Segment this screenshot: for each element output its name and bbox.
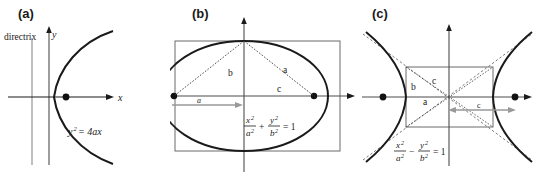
x-axis-label: x <box>117 92 123 103</box>
equation-num2-exponent: 2 <box>425 140 428 146</box>
semi-major-measure-label: a <box>197 96 201 105</box>
y-axis-arrowhead <box>446 24 452 31</box>
equation-rhs: = 1 <box>433 147 446 157</box>
equation-rhs: = 1 <box>283 122 296 132</box>
focal-measure-label: c <box>477 101 481 110</box>
directrix-label: directrix <box>4 32 36 42</box>
focus-left-point <box>380 94 387 101</box>
equation-operator: − <box>409 147 414 157</box>
equation-num2: y <box>269 115 274 125</box>
conjugate-axis-label: b <box>411 82 416 92</box>
y-axis-arrowhead <box>46 26 52 33</box>
parabola-plot: directrix x y y 2 = 4ax <box>0 0 170 178</box>
x-axis-arrowhead <box>106 94 114 100</box>
equation-den1-exponent: 2 <box>251 128 254 134</box>
parabola-equation: y 2 = 4ax <box>67 125 102 138</box>
panel-parabola: (a) directrix x y y 2 = 4ax <box>0 0 170 178</box>
equation-lhs-base: y <box>67 126 73 137</box>
equation-rhs: = 4ax <box>78 126 102 137</box>
hyperbola-equation: x 2 a 2 − y 2 b 2 = 1 <box>394 140 446 164</box>
x-axis-arrowhead <box>524 94 532 100</box>
equation-operator: + <box>259 122 264 132</box>
focal-distance-label: c <box>277 84 281 94</box>
equation-num1-exponent: 2 <box>251 115 254 121</box>
semi-major-measure-arrowhead <box>235 102 243 108</box>
equation-den2-exponent: 2 <box>275 128 278 134</box>
hyperbola-plot: b c a c x 2 a 2 − y 2 b 2 = 1 <box>360 0 538 178</box>
equation-num1: x <box>245 115 250 125</box>
ellipse-equation: x 2 a 2 + y 2 b 2 = 1 <box>244 115 296 139</box>
y-axis-label: y <box>51 29 57 40</box>
equation-den2-exponent: 2 <box>425 153 428 159</box>
ellipse-plot: b a c a x 2 a 2 + y 2 b 2 = 1 <box>170 0 360 178</box>
diagonal-label: c <box>432 76 436 86</box>
semi-major-label: a <box>283 65 288 75</box>
conic-sections-figure: (a) directrix x y y 2 = 4ax <box>0 0 538 178</box>
equation-den1-exponent: 2 <box>401 153 404 159</box>
leg-to-left-focus <box>174 41 244 96</box>
y-axis-arrowhead <box>241 17 247 24</box>
panel-ellipse: (b) b a c a <box>170 0 360 178</box>
transverse-axis-label: a <box>423 97 428 107</box>
x-axis-arrowhead <box>347 93 355 99</box>
focus-point <box>63 94 70 101</box>
focus-right-point <box>512 94 519 101</box>
focal-measure-arrowhead-right <box>508 107 516 113</box>
equation-num2-exponent: 2 <box>275 115 278 121</box>
equation-num1-exponent: 2 <box>401 140 404 146</box>
equation-num1: x <box>395 140 400 150</box>
equation-lhs-exponent: 2 <box>74 125 78 132</box>
equation-num2: y <box>419 140 424 150</box>
semi-minor-label: b <box>228 68 233 78</box>
panel-hyperbola: (c) b c <box>360 0 538 178</box>
